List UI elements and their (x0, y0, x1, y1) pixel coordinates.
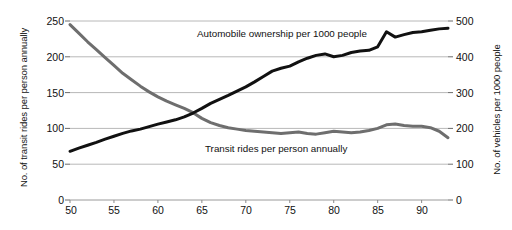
axis-tick-marks (65, 21, 453, 203)
series-label-automobile: Automobile ownership per 1000 people (197, 28, 367, 39)
chart-container: No. of transit rides per person annually… (0, 0, 512, 230)
series-label-transit: Transit rides per person annually (205, 143, 347, 154)
series-line-transit (70, 25, 448, 138)
gridlines (70, 21, 448, 200)
